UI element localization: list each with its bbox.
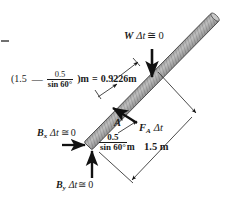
weight-symbol: W bbox=[124, 30, 133, 41]
by-delta-t: Δt bbox=[69, 179, 78, 190]
expr-lead: 1.5 bbox=[14, 74, 27, 84]
fa-subscript: A bbox=[146, 127, 151, 135]
point-a-label: A bbox=[114, 118, 121, 129]
lower-distance-unit: m bbox=[127, 143, 135, 153]
fa-delta-t: Δt bbox=[154, 122, 163, 133]
bx-subscript: x bbox=[44, 132, 47, 139]
expr-minus: — bbox=[32, 74, 43, 85]
lower-frac-num: 0.5 bbox=[99, 133, 127, 142]
weight-impulse-label: WΔt≅0 bbox=[124, 31, 164, 42]
fa-symbol: F bbox=[139, 122, 146, 133]
fa-impulse-label: FAΔt bbox=[139, 123, 163, 135]
total-length-label: 1.5 m bbox=[144, 142, 169, 153]
by-approx-eq: ≅ bbox=[78, 179, 86, 190]
expr-fraction: 0.5sin 60° bbox=[47, 70, 73, 88]
expr-result: 0.9226m bbox=[101, 74, 137, 84]
weight-approx-eq: ≅ bbox=[147, 30, 156, 41]
by-subscript: y bbox=[63, 184, 66, 191]
by-impulse-label: ByΔt≅0 bbox=[56, 180, 93, 192]
weight-delta-t: Δt bbox=[136, 30, 145, 41]
bx-impulse-label: BxΔt≅0 bbox=[37, 128, 76, 140]
lower-distance-label: 0.5sin 60°m bbox=[99, 133, 135, 152]
weight-zero: 0 bbox=[158, 30, 163, 41]
top-expression-label: (1.5—0.5sin 60°)m=0.9226m bbox=[11, 70, 136, 88]
expr-equals: = bbox=[92, 74, 98, 84]
bx-symbol: B bbox=[37, 127, 44, 138]
bx-zero: 0 bbox=[71, 127, 76, 138]
lower-frac-den: sin 60° bbox=[99, 142, 127, 152]
by-symbol: B bbox=[56, 179, 63, 190]
expr-frac-num: 0.5 bbox=[47, 70, 73, 79]
bx-delta-t: Δt bbox=[50, 127, 59, 138]
figure-vector-layer bbox=[0, 0, 227, 207]
expr-frac-den: sin 60° bbox=[47, 79, 73, 89]
by-zero: 0 bbox=[88, 179, 93, 190]
bx-approx-eq: ≅ bbox=[61, 127, 69, 138]
figure-canvas: WΔt≅0 (1.5—0.5sin 60°)m=0.9226m BxΔt≅0 B… bbox=[0, 0, 227, 207]
expr-close-paren: )m bbox=[77, 74, 89, 84]
lower-distance-fraction: 0.5sin 60° bbox=[99, 133, 127, 152]
